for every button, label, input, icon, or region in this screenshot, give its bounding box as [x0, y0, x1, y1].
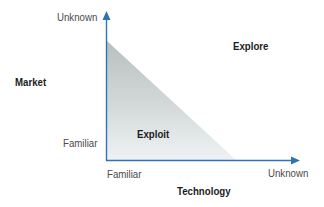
y-axis-title: Market: [15, 76, 46, 88]
x-axis-high-label: Unknown: [268, 167, 308, 179]
explore-region-label: Explore: [233, 40, 269, 52]
x-axis-title: Technology: [177, 185, 231, 197]
y-axis-low-label: Familiar: [63, 137, 97, 149]
exploit-region-triangle: [107, 41, 236, 160]
x-axis-arrow-icon: [291, 157, 300, 165]
x-axis-low-label: Familiar: [107, 168, 141, 180]
y-axis-high-label: Unknown: [57, 11, 97, 23]
y-axis-arrow-icon: [103, 11, 111, 20]
exploit-region-label: Exploit: [137, 128, 169, 140]
